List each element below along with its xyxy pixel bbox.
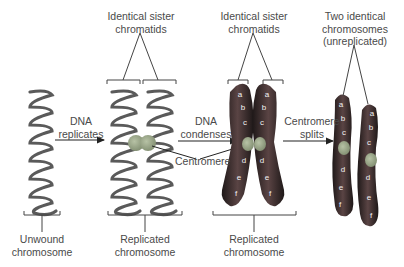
condensed-replicated-chromosome: a b c d e f a b c d e f [222,84,285,207]
label-line: Unwound [4,233,80,246]
label-line: splits [284,128,340,141]
label-line: condenses [180,128,232,141]
centromere-right [140,135,156,151]
svg-text:d: d [366,173,370,182]
label-line: (unreplicated) [318,35,392,48]
bracket-replicated-2 [213,211,296,232]
label-line: chromosomes [318,23,392,36]
label-line: Two identical [318,10,392,23]
bracket-sister-chromatids-1 [107,33,176,84]
label-sister-chromatids-2: Identical sister chromatids [217,10,291,35]
label-line: chromatids [217,23,291,36]
svg-text:e: e [265,173,270,182]
svg-text:a: a [339,100,344,109]
svg-text:a: a [370,109,375,118]
label-line: Identical sister [104,10,178,23]
svg-text:e: e [237,173,242,182]
label-line: Identical sister [217,10,291,23]
bracket-sister-chromatids-2 [228,33,283,84]
label-line: chromosome [216,246,292,259]
label-unwound-chromosome: Unwound chromosome [4,233,80,258]
label-dna-condenses: DNA condenses [180,115,232,140]
svg-text:a: a [265,90,270,99]
label-two-identical-chromosomes: Two identical chromosomes (unreplicated) [318,10,392,48]
label-line: chromatids [104,23,178,36]
svg-text:d: d [341,165,345,174]
label-line: DNA [180,115,232,128]
label-dna-replicates: DNA replicates [58,115,104,140]
label-line: Replicated [216,233,292,246]
label-line: chromosome [4,246,80,259]
svg-text:c: c [367,138,371,147]
svg-text:b: b [341,114,346,123]
svg-text:c: c [243,118,247,127]
label-centromere: Centromere [175,155,229,168]
svg-text:a: a [238,90,243,99]
replicated-coiled-chromosome [112,91,176,215]
svg-text:d: d [260,156,264,165]
svg-text:b: b [369,123,374,132]
label-line: Replicated [107,233,183,246]
svg-text:b: b [262,103,267,112]
svg-text:e: e [367,193,372,202]
label-sister-chromatids-1: Identical sister chromatids [104,10,178,35]
svg-text:c: c [342,128,346,137]
label-line: chromosome [107,246,183,259]
label-line: DNA [58,115,104,128]
svg-text:c: c [260,118,264,127]
pointer-two-chromosomes [343,45,368,104]
svg-text:d: d [242,156,246,165]
svg-text:e: e [339,183,344,192]
unwound-chromosome [30,91,56,215]
label-line: Centromere [284,115,340,128]
label-replicated-chromosome-2: Replicated chromosome [216,233,292,258]
label-centromere-splits: Centromere splits [284,115,340,140]
label-line: replicates [58,128,104,141]
svg-text:b: b [241,103,246,112]
label-replicated-chromosome-1: Replicated chromosome [107,233,183,258]
